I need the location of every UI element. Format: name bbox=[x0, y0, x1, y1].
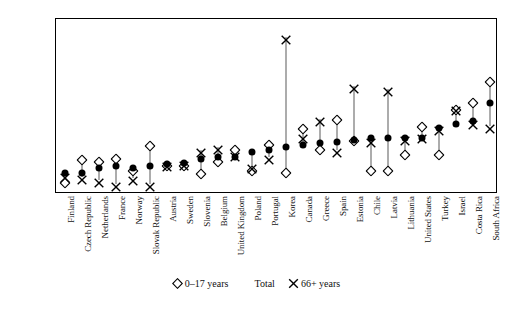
x-tick-label: Czech Republic bbox=[84, 196, 93, 252]
diamond-icon bbox=[172, 278, 183, 289]
data-point-total bbox=[112, 163, 119, 170]
x-tick-label: Estonia bbox=[356, 196, 365, 222]
data-point-young bbox=[263, 136, 274, 147]
data-point-young bbox=[110, 150, 121, 161]
data-point-old bbox=[297, 131, 308, 142]
circle-icon bbox=[241, 278, 252, 289]
data-point-old bbox=[348, 80, 359, 91]
x-tick-label: Greece bbox=[322, 196, 331, 221]
x-tick-label: Spain bbox=[339, 196, 348, 216]
x-tick-label: Costa Rica bbox=[475, 196, 484, 234]
data-point-total bbox=[78, 170, 85, 177]
data-point-total bbox=[95, 164, 102, 171]
x-tick-label: Belgium bbox=[220, 196, 229, 226]
data-point-total bbox=[333, 138, 340, 145]
data-point-total bbox=[282, 143, 289, 150]
legend-label: Total bbox=[254, 278, 274, 289]
data-point-young bbox=[297, 120, 308, 131]
data-point-old bbox=[484, 120, 495, 131]
data-point-total bbox=[214, 154, 221, 161]
data-point-total bbox=[350, 136, 357, 143]
legend-item: Total bbox=[241, 278, 274, 289]
data-point-old bbox=[450, 103, 461, 114]
data-point-total bbox=[401, 135, 408, 142]
x-tick-label: South Africa bbox=[492, 196, 501, 241]
data-point-old bbox=[246, 161, 257, 172]
x-tick-label: Slovenia bbox=[203, 196, 212, 227]
series-layer bbox=[56, 19, 496, 192]
legend-item: 66+ years bbox=[288, 278, 340, 289]
chart-figure: 0.000.050.100.150.200.250.300.350.400.45… bbox=[0, 0, 512, 311]
data-point-old bbox=[144, 178, 155, 189]
data-point-young bbox=[365, 162, 376, 173]
data-point-total bbox=[163, 161, 170, 168]
data-point-total bbox=[265, 147, 272, 154]
x-tick-label: Canada bbox=[305, 196, 314, 222]
data-point-total bbox=[452, 121, 459, 128]
data-point-total bbox=[384, 135, 391, 142]
x-tick-label: Finland bbox=[67, 196, 76, 223]
data-point-total bbox=[180, 159, 187, 166]
data-point-young bbox=[280, 164, 291, 175]
data-point-young bbox=[467, 94, 478, 105]
data-point-old bbox=[212, 141, 223, 152]
x-axis: FinlandCzech RepublicNetherlandsFranceNo… bbox=[55, 196, 497, 268]
data-point-total bbox=[299, 142, 306, 149]
data-point-total bbox=[197, 156, 204, 163]
x-tick-label: Austria bbox=[169, 196, 178, 222]
x-tick-label: Portugal bbox=[271, 196, 280, 226]
data-point-young bbox=[76, 152, 87, 163]
data-point-young bbox=[144, 138, 155, 149]
data-point-total bbox=[61, 170, 68, 177]
data-point-old bbox=[382, 84, 393, 95]
legend-item: 0–17 years bbox=[172, 278, 229, 289]
x-tick-label: Turkey bbox=[441, 196, 450, 221]
x-tick-label: Sweden bbox=[186, 196, 195, 224]
x-tick-label: Korea bbox=[288, 196, 297, 218]
x-tick-label: Netherlands bbox=[101, 196, 110, 238]
plot-area bbox=[55, 18, 497, 193]
data-point-young bbox=[382, 162, 393, 173]
x-tick-label: United Kingdom bbox=[237, 196, 246, 255]
data-point-young bbox=[93, 154, 104, 165]
x-tick-label: Poland bbox=[254, 196, 263, 220]
data-point-total bbox=[248, 149, 255, 156]
cross-icon bbox=[288, 278, 299, 289]
data-point-total bbox=[435, 124, 442, 131]
data-point-old bbox=[127, 173, 138, 184]
data-point-young bbox=[484, 73, 495, 84]
y-axis: 0.000.050.100.150.200.250.300.350.400.45… bbox=[0, 0, 55, 195]
x-tick-label: France bbox=[118, 196, 127, 220]
data-point-total bbox=[146, 163, 153, 170]
chart-legend: 0–17 yearsTotal66+ years bbox=[0, 278, 512, 289]
x-tick-label: Israel bbox=[458, 196, 467, 215]
data-point-total bbox=[231, 154, 238, 161]
data-point-young bbox=[433, 147, 444, 158]
data-point-young bbox=[195, 166, 206, 177]
data-point-total bbox=[316, 140, 323, 147]
data-point-total bbox=[486, 100, 493, 107]
data-point-total bbox=[469, 117, 476, 124]
data-point-old bbox=[195, 145, 206, 156]
x-tick-label: Norway bbox=[135, 196, 144, 224]
data-point-young bbox=[416, 119, 427, 130]
data-point-old bbox=[280, 31, 291, 42]
data-point-young bbox=[399, 147, 410, 158]
data-point-total bbox=[367, 135, 374, 142]
data-point-old bbox=[110, 178, 121, 189]
x-tick-label: Chile bbox=[373, 196, 382, 215]
data-point-young bbox=[331, 112, 342, 123]
x-tick-label: Latvia bbox=[390, 196, 399, 218]
x-tick-label: United States bbox=[424, 196, 433, 243]
data-point-old bbox=[93, 175, 104, 186]
legend-label: 0–17 years bbox=[185, 278, 229, 289]
data-point-old bbox=[314, 113, 325, 124]
data-point-old bbox=[331, 145, 342, 156]
legend-label: 66+ years bbox=[301, 278, 340, 289]
x-tick-label: Lithuania bbox=[407, 196, 416, 230]
x-tick-label: Slovak Republic bbox=[152, 196, 161, 254]
connector-line bbox=[387, 89, 388, 168]
data-point-total bbox=[129, 164, 136, 171]
data-point-total bbox=[418, 135, 425, 142]
